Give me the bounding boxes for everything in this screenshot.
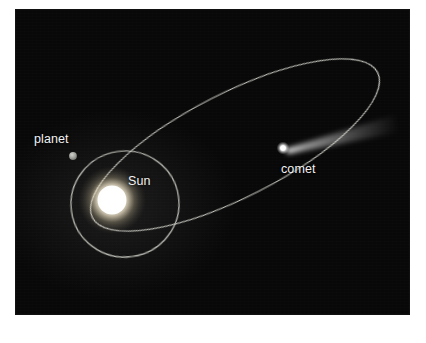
comet-tail bbox=[285, 115, 399, 154]
planet-label: planet bbox=[34, 133, 69, 146]
comet-nucleus bbox=[277, 142, 290, 155]
sun-label: Sun bbox=[128, 175, 151, 188]
orbit-scene bbox=[16, 10, 409, 314]
figure-root: planet Sun comet bbox=[0, 0, 426, 343]
comet-label: comet bbox=[281, 163, 316, 176]
space-background-panel: planet Sun comet bbox=[16, 10, 409, 314]
planet-body bbox=[69, 152, 77, 160]
